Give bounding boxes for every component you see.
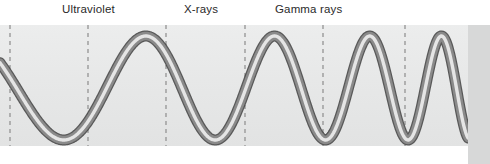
region-label-xrays: X-rays: [184, 3, 218, 15]
region-label-gamma-rays: Gamma rays: [275, 3, 342, 15]
band-bottom-margin: [0, 146, 468, 164]
spectrum-band: [0, 25, 468, 146]
em-spectrum-figure: Ultraviolet X-rays Gamma rays: [0, 0, 490, 164]
region-label-row: Ultraviolet X-rays Gamma rays: [0, 0, 490, 25]
region-label-ultraviolet: Ultraviolet: [62, 3, 115, 15]
